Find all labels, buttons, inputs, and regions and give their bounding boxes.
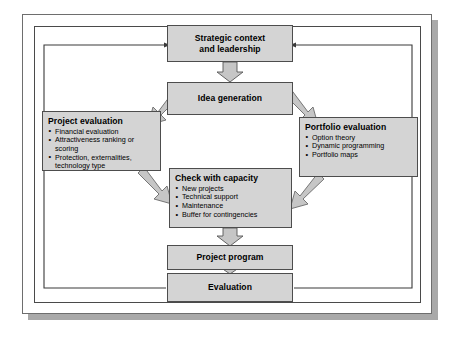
node-idea-generation-title: Idea generation bbox=[198, 93, 262, 104]
node-project-program[interactable]: Project program bbox=[167, 245, 293, 270]
diagram-canvas: Strategic context and leadership Idea ge… bbox=[0, 0, 460, 337]
node-portfolio-evaluation-title: Portfolio evaluation bbox=[305, 122, 412, 133]
node-check-with-capacity[interactable]: Check with capacity New projects Technic… bbox=[169, 168, 292, 228]
node-project-evaluation[interactable]: Project evaluation Financial evaluation … bbox=[42, 111, 161, 171]
node-project-program-title: Project program bbox=[196, 252, 263, 263]
node-check-with-capacity-bullets: New projects Technical support Maintenan… bbox=[175, 185, 286, 220]
node-project-evaluation-bullets: Financial evaluation Attractiveness rank… bbox=[48, 128, 155, 171]
node-strategic-context-title-line2: and leadership bbox=[199, 44, 260, 54]
node-idea-generation[interactable]: Idea generation bbox=[167, 82, 293, 115]
node-evaluation-title: Evaluation bbox=[208, 282, 252, 293]
node-project-evaluation-title: Project evaluation bbox=[48, 116, 155, 127]
diagonal-arrow-portfolio-evaluation-to-capacity bbox=[290, 173, 324, 209]
node-check-with-capacity-title: Check with capacity bbox=[175, 173, 286, 184]
node-portfolio-evaluation-bullets: Option theory Dynamic programming Portfo… bbox=[305, 134, 412, 160]
diagonal-arrow-project-evaluation-to-capacity bbox=[138, 167, 172, 204]
list-item: Buffer for contingencies bbox=[175, 211, 286, 219]
block-arrow-strategic-to-idea bbox=[217, 62, 243, 82]
node-strategic-context[interactable]: Strategic context and leadership bbox=[167, 25, 293, 62]
node-strategic-context-title-line1: Strategic context bbox=[195, 33, 266, 43]
node-portfolio-evaluation[interactable]: Portfolio evaluation Option theory Dynam… bbox=[299, 117, 418, 177]
list-item: Portfolio maps bbox=[305, 151, 412, 159]
list-item: Protection, externalities, technology ty… bbox=[48, 154, 155, 171]
list-item: Attractiveness ranking or scoring bbox=[48, 136, 155, 153]
node-evaluation[interactable]: Evaluation bbox=[167, 273, 293, 302]
block-arrow-capacity-to-program bbox=[217, 228, 243, 246]
node-strategic-context-title: Strategic context and leadership bbox=[195, 33, 266, 54]
